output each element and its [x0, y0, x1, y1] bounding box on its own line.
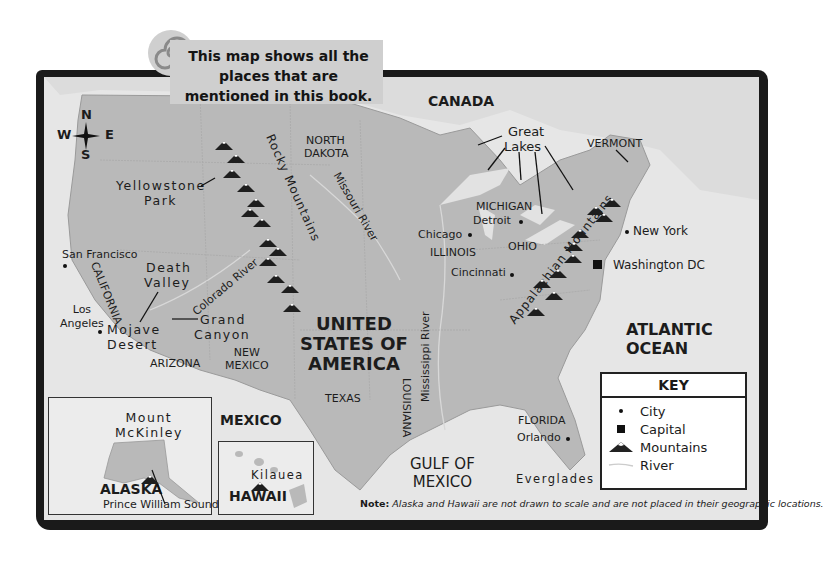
label-usa: UNITED STATES OF AMERICA — [300, 314, 408, 374]
atlantic-line-2: OCEAN — [626, 339, 713, 358]
note-label: Note: — [360, 498, 389, 509]
label-arizona: ARIZONA — [150, 357, 200, 371]
label-gulf-of-mexico: GULF OF MEXICO — [410, 455, 475, 491]
key-label-mountains: Mountains — [640, 440, 707, 455]
label-grand-canyon: Grand Canyon — [194, 312, 250, 342]
mountain-icon — [532, 278, 552, 288]
label-death-valley: Death Valley — [144, 260, 191, 290]
key-item-city: City — [602, 402, 745, 420]
la-line-2: Angeles — [60, 317, 104, 331]
capital-square-icon — [602, 425, 640, 433]
grand-canyon-line-2: Canyon — [194, 327, 250, 342]
nm-line-1: NEW — [225, 346, 269, 359]
mojave-line-2: Desert — [107, 337, 161, 352]
mountain-icon — [250, 481, 270, 491]
yellowstone-line-1: Yellowstone — [116, 178, 206, 193]
label-north-dakota: NORTH DAKOTA — [304, 134, 348, 160]
label-mojave: Mojave Desert — [107, 322, 161, 352]
label-mount-mckinley: Mount McKinley — [115, 410, 183, 440]
mountain-icon — [570, 228, 590, 238]
mountain-icon — [226, 153, 246, 163]
label-detroit: Detroit — [473, 214, 511, 228]
city-dot-cincinnati — [510, 273, 514, 277]
atlantic-line-1: ATLANTIC — [626, 320, 713, 339]
yellowstone-line-2: Park — [116, 193, 206, 208]
mountain-icon — [563, 253, 583, 263]
city-dot-los-angeles — [98, 330, 102, 334]
nd-line-2: DAKOTA — [304, 147, 348, 160]
usa-line-3: AMERICA — [300, 354, 408, 374]
mountain-icon — [222, 168, 242, 178]
key-label-river: River — [640, 458, 674, 473]
mountain-icon — [214, 140, 234, 150]
label-kilauea: Kilauea — [251, 468, 304, 482]
mountain-icon — [544, 290, 564, 300]
yellowstone-pointer — [200, 176, 220, 188]
key-item-river: River — [602, 456, 745, 474]
note-text: Alaska and Hawaii are not drawn to scale… — [392, 498, 823, 509]
label-mexico: MEXICO — [220, 413, 282, 427]
mountain-icon — [236, 182, 256, 192]
label-new-mexico: NEW MEXICO — [225, 346, 269, 372]
map-key: KEY City Capital Mountains River — [600, 372, 747, 490]
key-label-city: City — [640, 404, 665, 419]
label-san-francisco: San Francisco — [62, 248, 138, 262]
gulf-line-1: GULF OF — [410, 455, 475, 473]
mckinley-line-2: McKinley — [115, 425, 183, 440]
label-everglades: Everglades — [516, 472, 595, 486]
death-valley-pointer — [137, 290, 162, 325]
river-line-icon — [602, 462, 640, 468]
mountain-icon — [282, 302, 302, 312]
intro-banner: This map shows all the places that are m… — [148, 30, 383, 106]
death-valley-line-2: Valley — [144, 275, 191, 290]
gulf-line-2: MEXICO — [410, 473, 475, 491]
mountain-icon — [564, 241, 584, 251]
label-atlantic: ATLANTIC OCEAN — [626, 320, 713, 358]
nm-line-2: MEXICO — [225, 359, 269, 372]
usa-line-2: STATES OF — [300, 334, 408, 354]
mountain-icon — [602, 441, 640, 453]
label-ohio: OHIO — [508, 240, 537, 254]
banner-text: This map shows all the places that are m… — [176, 46, 381, 106]
mountain-icon — [266, 273, 286, 283]
mountain-icon — [240, 207, 260, 217]
label-yellowstone: Yellowstone Park — [116, 178, 206, 208]
key-item-capital: Capital — [602, 420, 745, 438]
city-dot-orlando — [566, 437, 570, 441]
label-cincinnati: Cincinnati — [451, 266, 506, 280]
key-item-mountains: Mountains — [602, 438, 745, 456]
mountain-icon — [280, 283, 300, 293]
mountain-icon — [594, 212, 614, 222]
label-mississippi-river: Mississippi River — [419, 311, 433, 402]
label-michigan: MICHIGAN — [476, 200, 532, 214]
mountain-icon — [258, 256, 278, 266]
label-illinois: ILLINOIS — [430, 246, 476, 260]
mckinley-line-1: Mount — [115, 410, 183, 425]
key-label-capital: Capital — [640, 422, 686, 437]
city-dot-detroit — [519, 220, 523, 224]
capital-marker-washington — [593, 260, 602, 269]
mountain-icon — [526, 306, 546, 316]
compass-star-icon — [57, 108, 117, 164]
la-line-1: Los — [60, 303, 104, 317]
death-valley-line-1: Death — [144, 260, 191, 275]
label-hawaii: HAWAII — [229, 489, 287, 503]
mountain-icon — [252, 217, 272, 227]
key-title: KEY — [602, 374, 745, 398]
label-los-angeles: Los Angeles — [60, 303, 104, 331]
label-canada: CANADA — [428, 94, 494, 108]
mountain-icon — [140, 474, 160, 484]
label-florida: FLORIDA — [518, 414, 565, 428]
compass-rose: N S W E — [57, 108, 117, 164]
mountain-icon — [246, 197, 266, 207]
city-dot-chicago — [468, 233, 472, 237]
grand-canyon-line-1: Grand — [194, 312, 250, 327]
usa-line-1: UNITED — [300, 314, 408, 334]
mountain-icon — [268, 246, 288, 256]
mojave-line-1: Mojave — [107, 322, 161, 337]
mountain-icon — [548, 268, 568, 278]
label-washington-dc: Washington DC — [613, 258, 705, 272]
map-note: Note: Alaska and Hawaii are not drawn to… — [360, 498, 824, 509]
label-new-york: New York — [633, 224, 688, 238]
nd-line-1: NORTH — [304, 134, 348, 147]
